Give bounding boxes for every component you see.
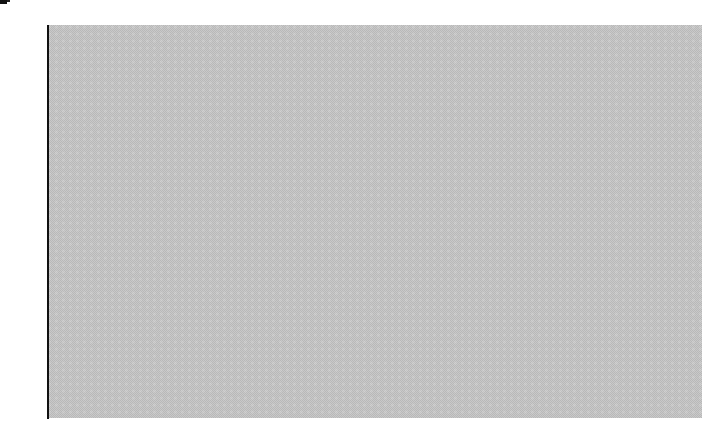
plot-area [48, 25, 702, 418]
mean-marker [0, 0, 7, 4]
y-axis-line [47, 25, 49, 419]
